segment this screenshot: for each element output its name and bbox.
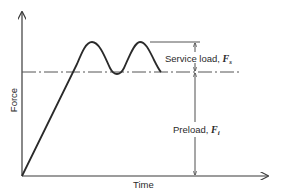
y-axis-label: Force: [8, 88, 19, 112]
preload-text: Preload,: [173, 124, 211, 135]
service-load-subscript: s: [228, 58, 232, 66]
x-axis-label: Time: [133, 179, 154, 190]
force-time-diagram: Service load, Fs Preload, Fi Force Time: [0, 0, 284, 194]
force-curve: [22, 42, 161, 176]
preload-label: Preload, Fi: [173, 124, 220, 137]
service-load-label: Service load, Fs: [165, 53, 232, 66]
service-load-text: Service load,: [165, 53, 223, 64]
preload-subscript: i: [218, 129, 220, 137]
